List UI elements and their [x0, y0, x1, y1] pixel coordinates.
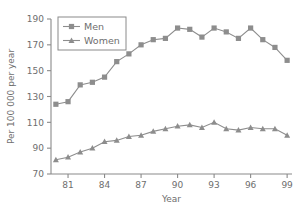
line-chart: 709011013015017019081848790939699YearPer… [0, 0, 305, 209]
y-tick-label: 110 [27, 118, 44, 128]
data-point-men [138, 42, 143, 47]
x-tick-label: 99 [281, 180, 293, 190]
y-tick-label: 150 [27, 66, 44, 76]
y-tick-label: 70 [33, 169, 45, 179]
data-point-men [272, 45, 277, 50]
x-tick-label: 96 [245, 180, 257, 190]
data-point-men [65, 99, 70, 104]
data-point-men [53, 102, 58, 107]
x-axis-title: Year [161, 194, 181, 204]
y-tick-label: 130 [27, 92, 44, 102]
legend-marker-men [69, 24, 74, 29]
chart-container: 709011013015017019081848790939699YearPer… [0, 0, 305, 209]
data-point-men [260, 37, 265, 42]
data-point-men [224, 29, 229, 34]
data-point-men [248, 25, 253, 30]
data-point-women [248, 124, 254, 129]
data-point-men [175, 25, 180, 30]
x-tick-label: 87 [135, 180, 146, 190]
data-point-women [211, 119, 217, 125]
x-tick-label: 81 [62, 180, 73, 190]
y-tick-label: 190 [27, 14, 44, 24]
data-point-men [151, 37, 156, 42]
data-point-men [212, 25, 217, 30]
x-tick-label: 93 [208, 180, 219, 190]
x-tick-label: 84 [99, 180, 111, 190]
y-tick-label: 90 [33, 143, 45, 153]
data-point-men [102, 75, 107, 80]
data-point-women [89, 145, 95, 151]
data-point-men [126, 51, 131, 56]
data-point-men [114, 59, 119, 64]
legend-label-women: Women [84, 35, 120, 46]
legend-label-men: Men [84, 21, 104, 32]
data-point-women [284, 132, 290, 138]
data-point-women [187, 122, 193, 128]
y-axis-title: Per 100 000 per year [6, 49, 16, 144]
data-point-men [163, 36, 168, 41]
data-point-men [90, 80, 95, 85]
data-point-men [236, 36, 241, 41]
data-point-men [78, 82, 83, 87]
data-point-men [199, 34, 204, 39]
x-tick-label: 90 [172, 180, 184, 190]
y-tick-label: 170 [27, 40, 44, 50]
data-point-women [223, 126, 229, 132]
data-point-men [187, 27, 192, 32]
data-point-men [285, 58, 290, 63]
